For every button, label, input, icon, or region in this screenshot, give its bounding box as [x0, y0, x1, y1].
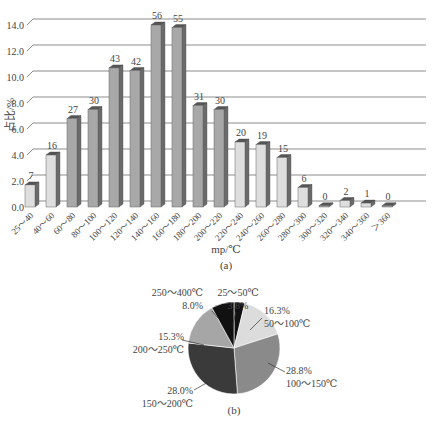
- bar-value-label: 56: [152, 10, 162, 21]
- gridline: [27, 19, 426, 25]
- bar: [130, 68, 144, 208]
- svg-text:28.8%: 28.8%: [286, 365, 312, 376]
- bar-chart-bars: 716273043425655313020191560210: [25, 10, 396, 207]
- x-tick-label: 40～60: [30, 210, 57, 237]
- bar: [340, 198, 354, 208]
- x-tick-label: 25～40: [9, 210, 36, 237]
- bar-chart-x-axis-label: mp/℃: [211, 243, 240, 255]
- bar-chart-x-ticks: 25～4040～6060～8080～100100～120120～140140～1…: [9, 210, 393, 243]
- svg-text:28.0%: 28.0%: [167, 385, 193, 396]
- bar: [67, 116, 81, 207]
- y-tick-label: 4.0: [12, 150, 25, 161]
- y-tick-label: 12.0: [7, 46, 25, 57]
- bar-value-label: 30: [89, 95, 99, 106]
- y-tick-label: 14.0: [7, 20, 25, 31]
- bar: [46, 152, 60, 207]
- gridline: [27, 97, 426, 103]
- svg-text:16.3%: 16.3%: [264, 305, 290, 316]
- bar: [235, 139, 249, 207]
- bar-value-label: 55: [173, 13, 183, 24]
- bar-value-label: 31: [194, 91, 204, 102]
- bar: [88, 107, 102, 208]
- bar: [319, 203, 333, 207]
- bar: [277, 155, 291, 207]
- bar-value-label: 7: [29, 170, 34, 181]
- bar-value-label: 1: [365, 188, 370, 199]
- pie-label: 28.0%150～200℃: [142, 381, 210, 409]
- bar-value-label: 42: [131, 56, 141, 67]
- x-tick-label: ＞360: [369, 210, 392, 233]
- svg-text:3.8%: 3.8%: [228, 300, 249, 311]
- bar: [25, 182, 39, 207]
- gridline: [27, 71, 426, 77]
- pie-slice: [188, 343, 237, 394]
- gridline: [27, 45, 426, 51]
- svg-text:25～50℃: 25～50℃: [217, 287, 258, 298]
- bar-value-label: 43: [110, 53, 120, 64]
- bar: [193, 103, 207, 207]
- y-tick-label: 2.0: [12, 176, 25, 187]
- svg-text:50～100℃: 50～100℃: [264, 318, 310, 329]
- svg-text:150～200℃: 150～200℃: [142, 398, 193, 409]
- bar: [109, 65, 123, 207]
- bar-chart-y-axis-label: 占比/%: [3, 98, 16, 132]
- bar-value-label: 0: [323, 191, 328, 202]
- svg-text:8.0%: 8.0%: [182, 300, 203, 311]
- bar-value-label: 2: [344, 186, 349, 197]
- y-tick-label: 0.0: [12, 202, 25, 213]
- bar-chart-caption: (a): [220, 259, 233, 272]
- bar-value-label: 0: [386, 191, 391, 202]
- bar-value-label: 16: [47, 140, 57, 151]
- bar: [382, 203, 396, 207]
- pie-chart-caption: (b): [228, 404, 241, 417]
- bar: [298, 185, 312, 208]
- bar: [172, 25, 186, 207]
- bar: [151, 22, 165, 207]
- svg-text:200～250℃: 200～250℃: [133, 344, 184, 355]
- figure: 0.02.04.06.08.010.012.014.0 占比/% 7162730…: [0, 0, 435, 428]
- y-tick-label: 10.0: [7, 72, 25, 83]
- bar-value-label: 30: [215, 95, 225, 106]
- svg-text:100～150℃: 100～150℃: [286, 378, 337, 389]
- svg-text:15.3%: 15.3%: [158, 331, 184, 342]
- svg-text:250～400℃: 250～400℃: [152, 287, 203, 298]
- bar: [214, 107, 228, 208]
- bar: [256, 142, 270, 207]
- bar-value-label: 27: [68, 104, 78, 115]
- bar-value-label: 19: [257, 130, 267, 141]
- bar-value-label: 15: [278, 143, 288, 154]
- bar-value-label: 6: [302, 173, 307, 184]
- bar-value-label: 20: [236, 127, 246, 138]
- pie-label: 28.8%100～150℃: [268, 363, 337, 389]
